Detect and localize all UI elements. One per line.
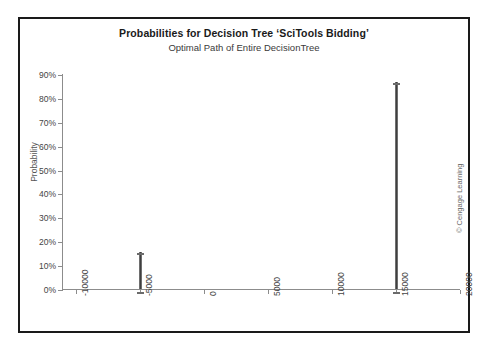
x-tick-label: 0 [208, 291, 218, 296]
x-tick-mark [460, 290, 461, 294]
chart-frame: Probabilities for Decision Tree ‘SciTool… [18, 17, 470, 333]
x-tick-label: 15000 [400, 272, 410, 296]
y-tick-mark [58, 171, 62, 172]
bar-base-marker [393, 292, 400, 294]
x-tick-mark [332, 290, 333, 294]
y-tick-mark [58, 218, 62, 219]
y-tick-label: 40% [39, 189, 56, 199]
plot-area: 90%80%70%60%50%40%30%20%10%0% -10000-500… [62, 74, 460, 290]
y-tick-mark [58, 75, 62, 76]
y-tick-label: 70% [39, 118, 56, 128]
y-tick-mark [58, 123, 62, 124]
y-axis-line [62, 74, 63, 291]
x-tick-mark [76, 290, 77, 294]
x-tick-label: -5000 [144, 274, 154, 296]
bar-base-marker [137, 292, 144, 294]
y-tick-label: 10% [39, 261, 56, 271]
y-tick-mark [58, 147, 62, 148]
copyright-credit: © Cengage Learning [455, 123, 464, 233]
y-tick-label: 60% [39, 142, 56, 152]
y-axis-label: Probability [29, 102, 39, 222]
x-tick-label: 10000 [336, 272, 346, 296]
y-tick-label: 0% [44, 285, 56, 295]
y-tick-mark [58, 242, 62, 243]
y-tick-mark [58, 99, 62, 100]
bar-top-cap [393, 83, 400, 85]
y-tick-label: 50% [39, 166, 56, 176]
bar [395, 82, 398, 289]
y-tick-mark [58, 290, 62, 291]
x-tick-mark [268, 290, 269, 294]
y-tick-label: 80% [39, 94, 56, 104]
chart-page: Probabilities for Decision Tree ‘SciTool… [0, 0, 502, 351]
y-tick-mark [58, 266, 62, 267]
y-tick-label: 20% [39, 237, 56, 247]
x-tick-mark [204, 290, 205, 294]
x-tick-label: 5000 [272, 277, 282, 296]
x-tick-label: -10000 [80, 270, 90, 296]
y-tick-mark [58, 194, 62, 195]
y-tick-label: 30% [39, 213, 56, 223]
bar-top-cap [137, 253, 144, 255]
chart-subtitle: Optimal Path of Entire DecisionTree [20, 42, 468, 53]
x-tick-label: 20000 [464, 272, 474, 296]
y-tick-label: 90% [39, 70, 56, 80]
chart-title: Probabilities for Decision Tree ‘SciTool… [20, 27, 468, 39]
bar [139, 252, 142, 289]
